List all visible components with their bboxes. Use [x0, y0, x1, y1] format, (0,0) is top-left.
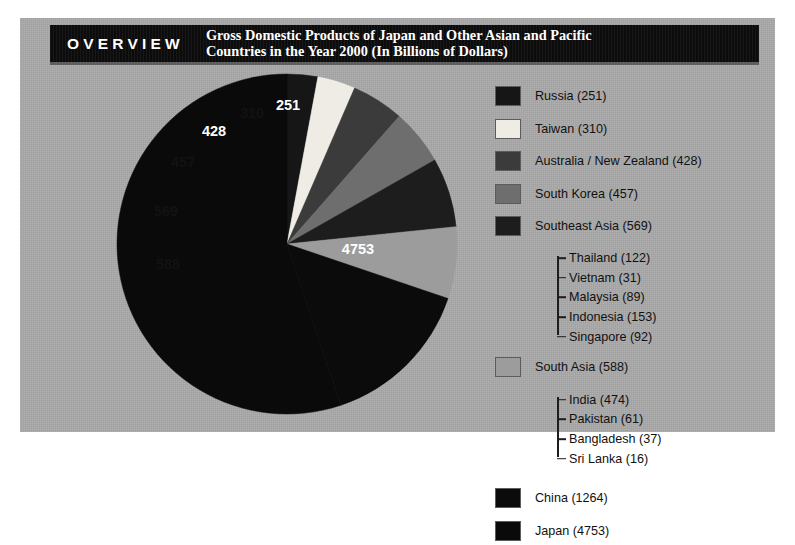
legend-swatch-southeast-asia: [495, 216, 521, 236]
sub-item-bangladesh[interactable]: Bangladesh (37): [563, 429, 770, 449]
legend-label-taiwan: Taiwan (310): [535, 122, 607, 136]
legend-label-southeast-asia: Southeast Asia (569): [535, 219, 652, 233]
legend-label-japan: Japan (4753): [535, 524, 609, 538]
sub-label-thailand: Thailand (122): [563, 251, 650, 265]
legend-item-australia-new-zealand[interactable]: Australia / New Zealand (428): [495, 151, 770, 171]
bracket-tick-icon: [557, 297, 566, 299]
sub-item-indonesia[interactable]: Indonesia (153): [563, 307, 770, 327]
bracket-tick-icon: [557, 419, 566, 421]
pie-slice-group: [117, 74, 457, 414]
sub-label-sri-lanka: Sri Lanka (16): [563, 452, 648, 466]
legend-swatch-australia-new-zealand: [495, 151, 521, 171]
pie-value-label-569: 569: [154, 203, 178, 219]
bracket-tick-icon: [557, 458, 566, 460]
sub-item-singapore[interactable]: Singapore (92): [563, 327, 770, 347]
legend-swatch-china: [495, 488, 521, 508]
pie-value-label-310: 310: [240, 105, 264, 121]
bracket-tick-icon: [557, 399, 566, 401]
bracket-line-south-asia: [557, 397, 559, 457]
sub-label-bangladesh: Bangladesh (37): [563, 432, 661, 446]
south-asia-subgroup: India (474) Pakistan (61) Bangladesh (37…: [495, 390, 770, 468]
legend-item-southeast-asia[interactable]: Southeast Asia (569): [495, 216, 770, 236]
legend-swatch-taiwan: [495, 119, 521, 139]
legend-label-australia-new-zealand: Australia / New Zealand (428): [535, 154, 702, 168]
bracket-tick-icon: [557, 336, 566, 338]
sub-item-thailand[interactable]: Thailand (122): [563, 249, 770, 269]
legend-label-russia: Russia (251): [535, 89, 606, 103]
legend-item-south-korea[interactable]: South Korea (457): [495, 184, 770, 204]
legend-spacer: [495, 479, 770, 488]
legend-item-russia[interactable]: Russia (251): [495, 86, 770, 106]
bracket-line-southeast-asia: [557, 256, 559, 336]
sub-label-indonesia: Indonesia (153): [563, 310, 657, 324]
pie-value-label-588: 588: [156, 256, 180, 272]
legend-label-china: China (1264): [535, 491, 608, 505]
sub-item-india[interactable]: India (474): [563, 390, 770, 410]
legend-swatch-south-korea: [495, 184, 521, 204]
legend-item-japan[interactable]: Japan (4753): [495, 521, 770, 541]
pie-chart: 2513104284575695884753: [100, 62, 480, 432]
legend-swatch-russia: [495, 86, 521, 106]
overview-header-bar: OVERVIEW Gross Domestic Products of Japa…: [50, 25, 759, 62]
sub-label-pakistan: Pakistan (61): [563, 412, 643, 426]
chart-legend: Russia (251) Taiwan (310) Australia / Ne…: [495, 86, 770, 545]
pie-value-label-428: 428: [202, 123, 226, 139]
legend-item-taiwan[interactable]: Taiwan (310): [495, 119, 770, 139]
bracket-tick-icon: [557, 438, 566, 440]
sub-item-vietnam[interactable]: Vietnam (31): [563, 268, 770, 288]
pie-value-label-251: 251: [276, 97, 300, 113]
legend-label-south-asia: South Asia (588): [535, 360, 628, 374]
sub-item-malaysia[interactable]: Malaysia (89): [563, 288, 770, 308]
sub-item-sri-lanka[interactable]: Sri Lanka (16): [563, 449, 770, 469]
sub-label-vietnam: Vietnam (31): [563, 271, 641, 285]
overview-badge: OVERVIEW: [67, 35, 184, 53]
bracket-tick-icon: [557, 258, 566, 260]
bracket-tick-icon: [557, 316, 566, 318]
legend-swatch-south-asia: [495, 357, 521, 377]
bracket-tick-icon: [557, 277, 566, 279]
legend-swatch-japan: [495, 521, 521, 541]
sub-label-singapore: Singapore (92): [563, 330, 652, 344]
sub-item-pakistan[interactable]: Pakistan (61): [563, 410, 770, 430]
pie-chart-svg: 2513104284575695884753: [100, 62, 480, 432]
sub-label-malaysia: Malaysia (89): [563, 290, 645, 304]
legend-item-china[interactable]: China (1264): [495, 488, 770, 508]
southeast-asia-subgroup: Thailand (122) Vietnam (31) Malaysia (89…: [495, 249, 770, 347]
legend-label-south-korea: South Korea (457): [535, 187, 638, 201]
legend-item-south-asia[interactable]: South Asia (588): [495, 357, 770, 377]
sub-label-india: India (474): [563, 393, 629, 407]
pie-value-label-4753: 4753: [342, 241, 374, 257]
page-title: Gross Domestic Products of Japan and Oth…: [206, 28, 592, 58]
pie-value-label-457: 457: [171, 154, 195, 170]
